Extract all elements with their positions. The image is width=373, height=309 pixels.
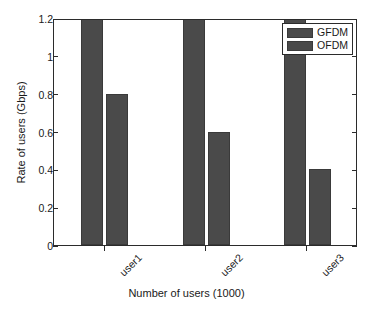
plot-area: GFDMOFDM xyxy=(53,19,357,246)
y-axis-tick-label: 0.8 xyxy=(38,90,53,101)
x-axis-tick-label: user3 xyxy=(320,252,346,278)
y-axis-tick-mark xyxy=(53,19,58,20)
x-axis-tick-label: user2 xyxy=(219,252,245,278)
y-axis-tick-label: 0.4 xyxy=(38,165,53,176)
y-axis-tick-mark-right xyxy=(352,246,357,247)
bar-ofdm-user1 xyxy=(106,94,128,245)
y-axis-tick-label: 0.2 xyxy=(38,203,53,214)
legend-entry: GFDM xyxy=(287,27,348,38)
y-axis-tick-mark-right xyxy=(352,208,357,209)
y-axis-tick-mark-right xyxy=(352,19,357,20)
y-axis-tick-mark xyxy=(53,94,58,95)
y-axis-title: Rate of users (Gbps) xyxy=(14,19,28,246)
y-axis-tick-mark-right xyxy=(352,56,357,57)
bar-gfdm-user1 xyxy=(81,19,103,245)
x-axis-tick-mark xyxy=(306,246,307,251)
x-axis-tick-label: user1 xyxy=(117,252,143,278)
y-axis-tick-mark xyxy=(53,170,58,171)
y-axis-tick-mark xyxy=(53,132,58,133)
x-axis-tick-mark xyxy=(104,246,105,251)
legend-label: GFDM xyxy=(317,27,348,38)
bar-ofdm-user3 xyxy=(309,169,331,245)
figure: 00.20.40.60.811.2 Rate of users (Gbps) G… xyxy=(0,0,373,309)
y-axis-tick-label: 0.6 xyxy=(38,128,53,139)
bar-gfdm-user2 xyxy=(183,19,205,245)
y-axis-tick-label: 1.2 xyxy=(38,14,53,25)
legend-entry: OFDM xyxy=(287,40,348,51)
y-axis-tick-mark xyxy=(53,56,58,57)
y-axis-tick-mark-right xyxy=(352,94,357,95)
x-axis-tick-mark xyxy=(205,246,206,251)
y-axis-tick-mark xyxy=(53,208,58,209)
legend-swatch-icon xyxy=(287,41,313,51)
y-axis-tick-mark-right xyxy=(352,132,357,133)
chart-legend: GFDMOFDM xyxy=(282,23,353,55)
y-axis-tick-mark xyxy=(53,246,58,247)
legend-swatch-icon xyxy=(287,28,313,38)
y-axis-tick-mark-right xyxy=(352,170,357,171)
bar-ofdm-user2 xyxy=(208,132,230,246)
x-axis-title: Number of users (1000) xyxy=(0,288,373,299)
legend-label: OFDM xyxy=(317,40,348,51)
